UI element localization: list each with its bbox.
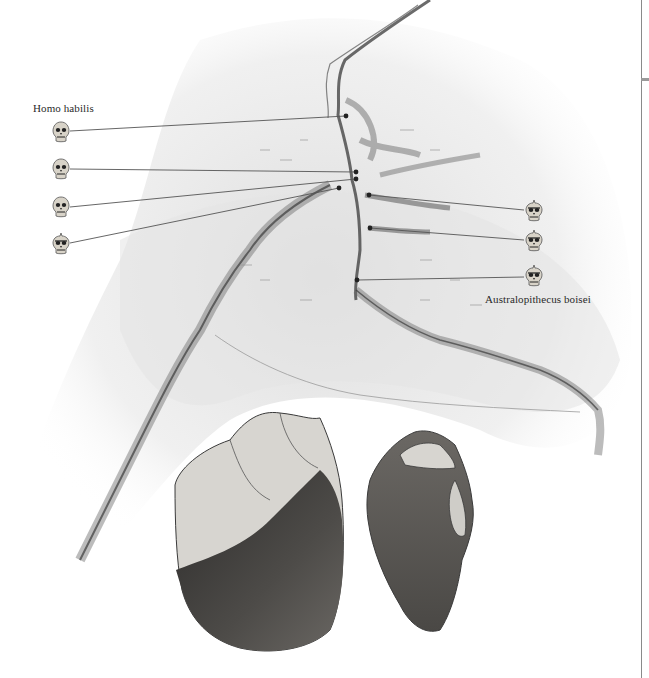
australopithecus-boisei-label: Australopithecus boisei <box>485 293 591 305</box>
homo-habilis-label: Homo habilis <box>33 102 94 114</box>
page-edge-tick <box>641 78 649 81</box>
crested-skull-icon <box>525 200 543 222</box>
crested-skull-icon <box>525 230 543 252</box>
crested-skull-icon <box>525 265 543 287</box>
skull-icon <box>52 196 70 218</box>
crested-skull-icon <box>52 233 70 255</box>
page-edge-rule <box>641 0 642 678</box>
olduvai-gorge-illustration: Homo habilis <box>0 0 649 678</box>
chopper-tool <box>175 412 343 651</box>
skull-icon <box>52 121 70 143</box>
skull-icon <box>52 158 70 180</box>
flake-tool <box>367 431 473 631</box>
gorge-map <box>0 0 649 678</box>
